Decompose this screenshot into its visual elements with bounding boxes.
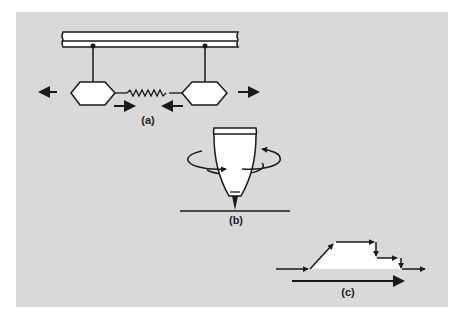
overhead-beam bbox=[62, 32, 238, 47]
panel-b bbox=[180, 128, 290, 211]
tip-point bbox=[232, 196, 238, 210]
hexagon-body-left bbox=[71, 82, 115, 105]
panel-c bbox=[276, 242, 425, 281]
label-b: (b) bbox=[229, 214, 243, 226]
spinning-tip-body bbox=[214, 128, 257, 196]
label-c: (c) bbox=[341, 286, 354, 298]
label-a: (a) bbox=[141, 114, 154, 126]
hexagon-body-right bbox=[182, 82, 227, 105]
diagram-canvas bbox=[0, 0, 461, 320]
profile-fill bbox=[310, 242, 402, 269]
panel-a bbox=[40, 32, 258, 106]
coil-spring bbox=[115, 90, 182, 96]
